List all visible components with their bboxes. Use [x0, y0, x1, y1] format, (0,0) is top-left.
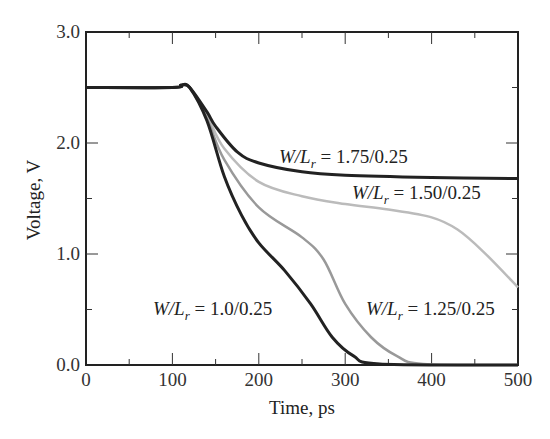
- x-tick-label: 200: [245, 369, 274, 390]
- x-tick-label: 500: [504, 369, 533, 390]
- y-tick-label: 2.0: [56, 132, 80, 153]
- voltage-time-chart: 01002003004005000.01.02.03.0 Time, ps Vo…: [0, 0, 550, 439]
- y-tick-label: 3.0: [56, 21, 80, 42]
- y-axis-title: Voltage, V: [23, 159, 44, 240]
- curve-label-1-25: W/Lr = 1.25/0.25: [366, 298, 495, 323]
- curve-label-1-50: W/Lr = 1.50/0.25: [352, 182, 481, 207]
- curve--1.0-0.25: [86, 84, 518, 365]
- y-tick-label: 1.0: [56, 243, 80, 264]
- curve--1.25-0.25: [86, 84, 518, 365]
- curve-label-1-75: W/Lr = 1.75/0.25: [279, 146, 408, 171]
- x-tick-label: 0: [81, 369, 91, 390]
- axis-ticks: 01002003004005000.01.02.03.0: [56, 21, 532, 390]
- x-axis-title: Time, ps: [269, 397, 335, 418]
- x-tick-label: 400: [417, 369, 446, 390]
- y-tick-label: 0.0: [56, 354, 80, 375]
- curve-label-1-0: W/Lr = 1.0/0.25: [153, 298, 272, 323]
- x-tick-label: 100: [158, 369, 187, 390]
- x-tick-label: 300: [331, 369, 360, 390]
- curves: [86, 84, 518, 365]
